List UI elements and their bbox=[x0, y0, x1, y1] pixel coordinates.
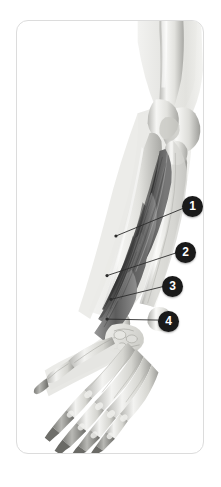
callout-marker-4[interactable]: 4 bbox=[158, 311, 179, 332]
figure-card: 1 2 3 4 bbox=[16, 20, 204, 454]
callout-marker-3[interactable]: 3 bbox=[162, 276, 183, 297]
callout-marker-1[interactable]: 1 bbox=[182, 196, 203, 217]
forearm-anatomy-illustration bbox=[17, 21, 203, 453]
hand-skeleton bbox=[34, 337, 159, 453]
callout-marker-2[interactable]: 2 bbox=[175, 242, 196, 263]
